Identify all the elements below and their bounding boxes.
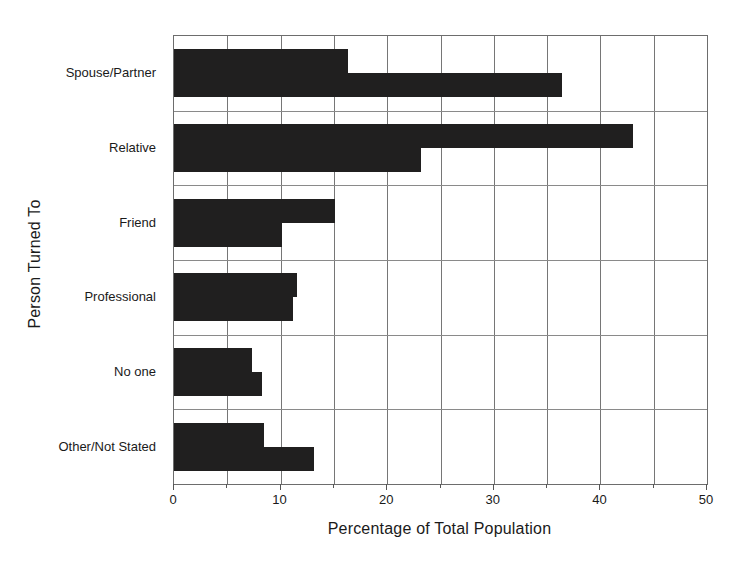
- gridline-horizontal: [174, 111, 707, 112]
- x-tick-mark: [599, 484, 600, 490]
- x-tick-label: 0: [169, 492, 176, 507]
- y-tick-label: Other/Not Stated: [58, 438, 156, 453]
- y-tick-label: Professional: [84, 289, 156, 304]
- y-tick-label: Spouse/Partner: [66, 65, 156, 80]
- x-axis-ticks: 01020304050: [173, 484, 706, 524]
- gridline-horizontal: [174, 185, 707, 186]
- y-tick-label: Relative: [109, 140, 156, 155]
- bar: [174, 297, 293, 321]
- bar: [174, 423, 264, 447]
- bar: [174, 447, 314, 471]
- x-tick-mark-minor: [546, 484, 547, 488]
- bar: [174, 124, 633, 148]
- x-tick-mark-minor: [440, 484, 441, 488]
- x-tick-label: 20: [379, 492, 393, 507]
- bar: [174, 199, 335, 223]
- x-tick-mark-minor: [226, 484, 227, 488]
- gridline-horizontal: [174, 409, 707, 410]
- bar: [174, 73, 562, 97]
- bar: [174, 148, 421, 172]
- x-tick-mark: [173, 484, 174, 490]
- y-axis-tick-labels: Spouse/PartnerRelativeFriendProfessional…: [40, 35, 164, 483]
- x-tick-mark-minor: [333, 484, 334, 488]
- gridline-horizontal: [174, 335, 707, 336]
- x-tick-label: 30: [486, 492, 500, 507]
- x-tick-label: 50: [699, 492, 713, 507]
- bar: [174, 223, 282, 247]
- bar-chart-figure: Person Turned To Spouse/PartnerRelativeF…: [0, 0, 752, 578]
- plot-area: [173, 35, 708, 485]
- x-tick-mark-minor: [653, 484, 654, 488]
- x-tick-mark: [493, 484, 494, 490]
- y-tick-label: Friend: [119, 214, 156, 229]
- x-tick-mark: [706, 484, 707, 490]
- bar: [174, 348, 252, 372]
- y-tick-label: No one: [114, 364, 156, 379]
- bar: [174, 273, 297, 297]
- x-axis-title: Percentage of Total Population: [173, 520, 706, 538]
- bar: [174, 49, 348, 73]
- bar: [174, 372, 262, 396]
- x-tick-label: 40: [592, 492, 606, 507]
- x-tick-label: 10: [272, 492, 286, 507]
- gridline-horizontal: [174, 260, 707, 261]
- x-tick-mark: [280, 484, 281, 490]
- x-tick-mark: [386, 484, 387, 490]
